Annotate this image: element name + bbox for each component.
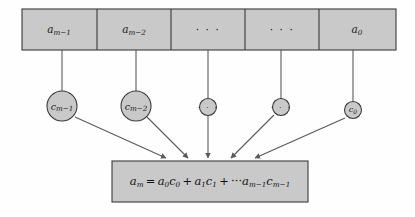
diagram-canvas: am−1 am−2 · · · · · · a0	[0, 0, 415, 217]
cell-label-2: · · ·	[196, 24, 221, 36]
node-to-result-arrows	[75, 115, 345, 158]
multiplier-nodes-group: cm−1 cm−2 · · · · · · c0	[47, 91, 362, 121]
result-box-group: am = a0c0 + a1c1 + ···am−1cm−1	[112, 161, 308, 202]
result-arrow-4	[255, 118, 345, 158]
coefficient-array-group: am−1 am−2 · · · · · · a0	[22, 9, 396, 50]
result-equation-text: am = a0c0 + a1c1 + ···am−1cm−1	[130, 174, 290, 189]
node-label-3: · · ·	[271, 103, 292, 112]
result-arrow-3	[231, 115, 274, 158]
cell-to-node-connectors	[62, 50, 353, 101]
result-arrow-0	[75, 117, 166, 158]
cell-label-3: · · ·	[270, 24, 295, 36]
node-label-2: · · ·	[198, 103, 219, 112]
convolution-diagram: am−1 am−2 · · · · · · a0	[0, 0, 415, 217]
